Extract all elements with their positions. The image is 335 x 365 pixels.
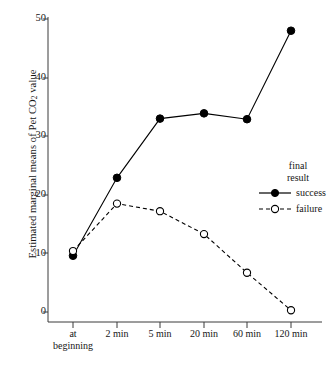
legend-key-failure-icon [258,202,292,216]
data-point-failure-5-min[interactable] [156,208,163,215]
legend-title-line1: final [266,160,330,172]
data-point-failure-120-min[interactable] [287,307,294,314]
series-line-success [73,31,291,256]
data-point-success-120-min[interactable] [287,27,295,35]
legend-title-line2: result [266,172,330,184]
legend-label-success: success [292,187,326,198]
series-line-failure [73,204,291,311]
data-point-failure-2-min[interactable] [113,200,120,207]
legend-item-failure[interactable]: failure [258,201,334,216]
x-tick-label-line2: beginning [43,340,103,352]
legend: final result success failure [258,160,334,216]
y-axis-ticks [43,19,48,312]
legend-title: final result [266,160,330,184]
legend-key-success-icon [258,186,292,200]
data-point-success-5-min[interactable] [156,115,164,123]
data-point-success-20-min[interactable] [200,110,208,118]
data-point-failure-60-min[interactable] [243,269,250,276]
data-point-failure-20-min[interactable] [200,230,207,237]
legend-label-failure: failure [292,203,322,214]
legend-item-success[interactable]: success [258,185,334,200]
x-tick-label-120-min: 120 min [261,328,321,340]
data-point-success-60-min[interactable] [243,115,251,123]
data-point-failure-at-beginning[interactable] [69,247,76,254]
data-point-success-2-min[interactable] [113,174,121,182]
chart-container: Estimated marginal means of Pet CO2 valu… [0,0,335,365]
